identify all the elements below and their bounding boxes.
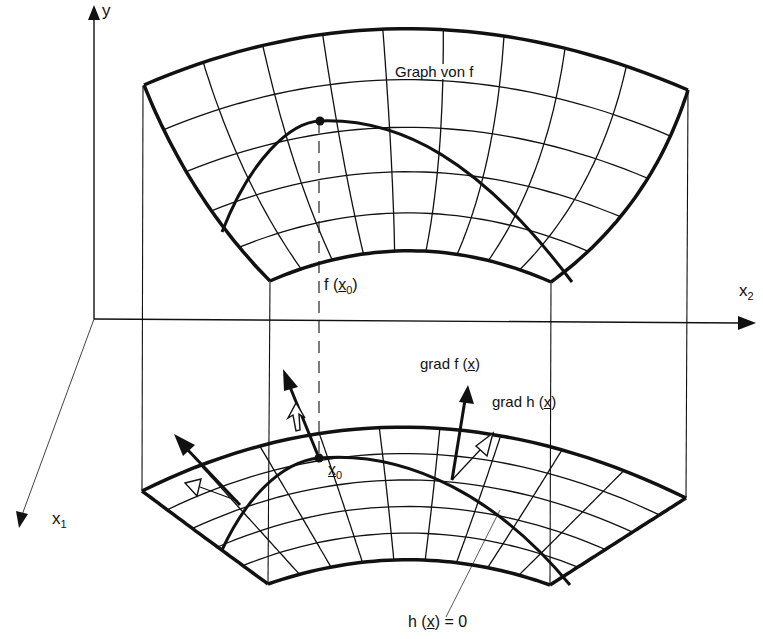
x2-axis-subscript: 2: [748, 290, 754, 302]
grad-f-var: x: [468, 355, 476, 372]
grad-h-suffix: ): [551, 393, 556, 410]
surface-edge-outer: [144, 29, 688, 90]
surface-edge-inner: [268, 560, 550, 585]
diagram-canvas: [0, 0, 763, 639]
x1-axis: [22, 319, 94, 515]
grid-line: [519, 471, 624, 575]
axes: [16, 5, 756, 528]
graph-title-label: Graph von f: [394, 64, 474, 79]
x1-axis-arrowhead: [16, 511, 28, 528]
x0-subscript: 0: [336, 469, 342, 481]
grid-line: [203, 62, 301, 269]
constraint-prefix: h (: [408, 613, 427, 630]
constraint-var: x: [427, 613, 435, 630]
x2-axis-name: x: [739, 281, 748, 300]
constraint-suffix: ) = 0: [435, 613, 467, 630]
grid-line: [167, 454, 659, 515]
x1-axis-label: x1: [52, 510, 67, 530]
grid-line: [383, 29, 395, 251]
grid-line: [201, 465, 300, 574]
grid-line: [218, 507, 606, 550]
surface-edge-right: [551, 90, 688, 282]
projection-lines: [142, 86, 688, 585]
grad-f-suffix: ): [475, 355, 480, 372]
grad-f-label: grad f (x): [420, 356, 480, 371]
x2-axis-label: x2: [739, 282, 754, 302]
grid-line: [425, 429, 440, 561]
surface-edge-inner: [270, 251, 551, 282]
constraint-curve-on-graph: [222, 121, 572, 282]
y-axis-arrowhead: [88, 5, 100, 20]
grid-line: [379, 428, 394, 560]
x1-axis-name: x: [52, 509, 61, 528]
y-axis-label: y: [102, 2, 111, 19]
grad-h-prefix: grad h (: [492, 393, 544, 410]
grid-line: [319, 434, 362, 563]
x2-axis-arrowhead: [738, 316, 756, 330]
x0-label: x0: [328, 462, 342, 481]
f-x0-label: f (x0): [324, 277, 358, 296]
x2-axis: [94, 319, 740, 323]
f-x0-prefix: f (: [324, 276, 338, 293]
x1-axis-subscript: 1: [61, 518, 67, 530]
grad-h-label: grad h (x): [492, 394, 556, 409]
grad-f-prefix: grad f (: [420, 355, 468, 372]
grid-line: [456, 436, 500, 563]
surface-edge-right: [550, 498, 686, 585]
f-x0-suffix: ): [352, 276, 357, 293]
constraint-label: h (x) = 0: [408, 614, 467, 630]
x0-var: x: [328, 461, 336, 478]
domain-surface-lower: [142, 427, 686, 585]
grid-line: [239, 213, 588, 251]
grad-h-arrow-x0: [288, 403, 305, 431]
y-axis-name: y: [102, 1, 111, 20]
grid-line: [211, 172, 620, 217]
grad-f-arrow-left: [174, 434, 240, 505]
point-f-x0: [316, 117, 325, 126]
